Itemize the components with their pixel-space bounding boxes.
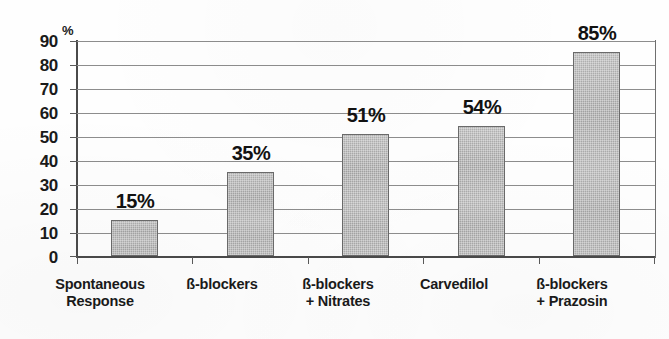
y-axis-unit-label: % <box>62 24 74 37</box>
y-tick-label-30: 30 <box>18 177 58 194</box>
y-tick-label-50: 50 <box>18 129 58 146</box>
axis-baseline-0 <box>77 256 655 258</box>
y-tick-mark-20 <box>70 209 77 210</box>
x-tick-mark-5 <box>654 257 655 264</box>
bar-carvedilol <box>458 126 505 256</box>
y-tick-mark-70 <box>70 89 77 90</box>
y-tick-mark-90 <box>70 41 77 42</box>
value-label-beta-blockers-nitrates: 51% <box>330 105 402 125</box>
y-tick-label-80: 80 <box>18 57 58 74</box>
bar-beta-blockers-prazosin <box>573 52 620 256</box>
x-tick-mark-4 <box>539 257 540 264</box>
x-tick-mark-2 <box>308 257 309 264</box>
y-tick-label-90: 90 <box>18 33 58 50</box>
plot-area: 15% 35% 51% 54% 85% <box>77 41 655 257</box>
bar-beta-blockers-nitrates <box>342 134 389 256</box>
y-tick-label-40: 40 <box>18 153 58 170</box>
x-category-label-spontaneous-response: Spontaneous Response <box>33 276 167 310</box>
value-label-carvedilol: 54% <box>446 97 518 117</box>
y-axis-line <box>76 40 78 258</box>
gridline-80 <box>77 65 655 66</box>
value-label-beta-blockers: 35% <box>215 143 287 163</box>
x-tick-mark-3 <box>423 257 424 264</box>
y-tick-mark-50 <box>70 137 77 138</box>
bar-spontaneous-response <box>111 220 158 256</box>
y-tick-mark-40 <box>70 161 77 162</box>
y-tick-label-10: 10 <box>18 225 58 242</box>
x-category-label-beta-blockers-prazosin: ß-blockers + Prazosin <box>507 276 637 310</box>
value-label-spontaneous-response: 15% <box>99 191 171 211</box>
y-tick-mark-30 <box>70 185 77 186</box>
y-tick-mark-80 <box>70 65 77 66</box>
bar-beta-blockers <box>227 172 274 256</box>
chart-page: % 90 80 70 60 50 40 30 20 10 0 <box>0 0 669 339</box>
plot-right-border <box>655 40 656 258</box>
x-category-label-beta-blockers: ß-blockers <box>160 276 284 293</box>
x-tick-mark-1 <box>192 257 193 264</box>
value-label-beta-blockers-prazosin: 85% <box>561 23 633 43</box>
y-tick-label-20: 20 <box>18 201 58 218</box>
y-tick-mark-0 <box>70 256 77 257</box>
x-category-label-carvedilol: Carvedilol <box>392 276 516 293</box>
y-tick-label-60: 60 <box>18 105 58 122</box>
y-tick-label-70: 70 <box>18 81 58 98</box>
y-tick-label-0: 0 <box>18 249 58 266</box>
x-tick-mark-0 <box>77 257 78 264</box>
y-tick-mark-10 <box>70 233 77 234</box>
gridline-70 <box>77 89 655 90</box>
x-category-label-beta-blockers-nitrates: ß-blockers + Nitrates <box>276 276 400 310</box>
y-tick-mark-60 <box>70 113 77 114</box>
